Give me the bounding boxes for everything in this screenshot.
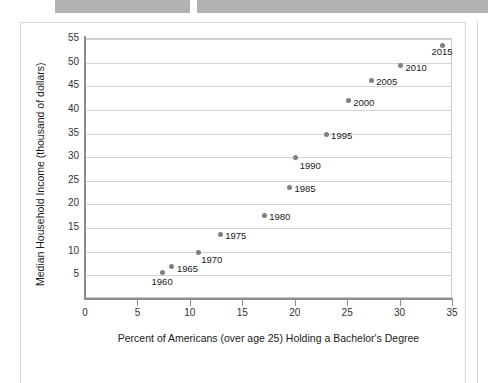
x-tick-mark-15 [242,300,243,306]
y-tick-20: 20 [85,203,86,204]
data-point-2005[interactable] [369,78,374,83]
gridline-y-5 [86,275,451,276]
y-tick-label: 5 [73,269,79,279]
x-tick-mark-35 [452,300,453,306]
data-point-1975[interactable] [218,232,223,237]
x-tick-mark-20 [295,300,296,306]
x-tick-label-20: 20 [289,308,300,318]
data-point-2010[interactable] [398,63,403,68]
y-tick-15: 15 [85,227,86,228]
y-tick-label: 30 [68,151,79,161]
y-tick-label: 50 [68,57,79,67]
y-axis-title: Median Household Income (thousand of dol… [34,44,47,304]
x-tick-label-5: 5 [135,308,141,318]
data-point-label-1975: 1975 [225,231,246,241]
x-tick-mark-5 [137,300,138,306]
data-point-label-2000: 2000 [353,98,374,108]
data-point-1960[interactable] [160,270,165,275]
data-point-label-2005: 2005 [376,77,397,87]
gridline-y-40 [86,110,451,111]
y-tick-35: 35 [85,133,86,134]
y-tick-50: 50 [85,62,86,63]
x-tick-mark-25 [347,300,348,306]
data-point-1980[interactable] [262,213,267,218]
y-axis-spine [84,36,86,300]
y-tick-label: 35 [68,128,79,138]
data-point-label-1985: 1985 [294,184,315,194]
data-point-1970[interactable] [196,250,201,255]
data-point-label-1995: 1995 [331,131,352,141]
y-tick-label: 20 [68,198,79,208]
x-tick-label-15: 15 [237,308,248,318]
gridline-y-25 [86,181,451,182]
data-point-label-1960: 1960 [152,277,173,287]
data-point-label-1965: 1965 [177,264,198,274]
gridline-y-35 [86,134,451,135]
data-point-label-1990: 1990 [300,161,321,171]
data-point-2000[interactable] [346,98,351,103]
y-tick-5: 5 [85,274,86,275]
data-point-label-1970: 1970 [201,255,222,265]
x-tick-label-0: 0 [82,308,88,318]
gridline-y-15 [86,228,451,229]
plot-area: 1960196519701975198019851990199520002005… [85,38,452,298]
x-axis-title: Percent of Americans (over age 25) Holdi… [85,332,452,345]
y-tick-label: 15 [68,222,79,232]
y-tick-label: 25 [68,175,79,185]
y-tick-label: 40 [68,104,79,114]
x-tick-mark-10 [190,300,191,306]
data-point-1990[interactable] [293,155,298,160]
data-point-label-2010: 2010 [406,63,427,73]
y-tick-label: 10 [68,246,79,256]
scatter-chart-figure: 1960196519701975198019851990199520002005… [0,0,488,383]
gridline-y-30 [86,157,451,158]
y-tick-label: 55 [68,33,79,43]
data-point-label-1980: 1980 [269,212,290,222]
y-tick-label: 45 [68,80,79,90]
data-point-1995[interactable] [324,132,329,137]
x-tick-label-35: 35 [446,308,457,318]
x-tick-label-10: 10 [184,308,195,318]
gridline-y-55 [86,39,451,40]
y-tick-55: 55 [85,38,86,39]
x-tick-label-30: 30 [394,308,405,318]
y-tick-45: 45 [85,85,86,86]
x-tick-mark-30 [400,300,401,306]
data-point-label-2015: 2015 [432,47,453,57]
gridline-y-10 [86,252,451,253]
data-point-1985[interactable] [287,185,292,190]
gridline-y-20 [86,204,451,205]
y-tick-30: 30 [85,156,86,157]
data-point-1965[interactable] [169,264,174,269]
y-tick-40: 40 [85,109,86,110]
x-axis-spine [84,298,453,300]
y-tick-25: 25 [85,180,86,181]
y-tick-10: 10 [85,251,86,252]
x-tick-label-25: 25 [342,308,353,318]
gridline-y-50 [86,63,451,64]
